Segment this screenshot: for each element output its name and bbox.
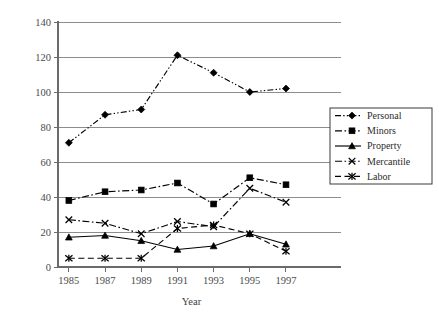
data-marker-square — [102, 189, 108, 195]
y-tick-label: 120 — [35, 52, 51, 63]
x-tick-label: 1991 — [167, 275, 188, 286]
data-marker-square — [138, 187, 144, 193]
data-marker-diamond — [102, 111, 109, 118]
data-marker-square — [349, 128, 355, 134]
legend-label-personal: Personal — [367, 110, 402, 121]
data-marker-asterisk — [282, 248, 289, 255]
x-tick-label: 1987 — [95, 275, 116, 286]
series-personal — [65, 52, 289, 147]
y-tick-labels: 020406080100120140 — [35, 17, 51, 273]
series-line-personal — [69, 55, 286, 143]
data-marker-asterisk — [174, 225, 181, 232]
legend-label-property: Property — [367, 140, 401, 151]
x-tick-label: 1993 — [203, 275, 224, 286]
data-marker-square — [66, 198, 72, 204]
data-marker-diamond — [246, 89, 253, 96]
x-axis — [58, 267, 341, 272]
data-marker-square — [247, 175, 253, 181]
data-marker-x — [138, 230, 145, 237]
data-marker-asterisk — [246, 230, 253, 237]
data-marker-square — [211, 201, 217, 207]
y-tick-label: 80 — [41, 122, 52, 133]
series-property — [65, 230, 289, 252]
gridlines — [58, 22, 341, 232]
y-tick-label: 20 — [41, 227, 52, 238]
x-axis-title-text: Year — [182, 296, 202, 307]
x-tick-label: 1989 — [131, 275, 152, 286]
data-marker-square — [283, 182, 289, 188]
y-tick-label: 60 — [41, 157, 52, 168]
x-tick-label: 1995 — [239, 275, 260, 286]
x-tick-label: 1985 — [58, 275, 79, 286]
y-tick-label: 140 — [35, 17, 51, 28]
y-tick-label: 40 — [41, 192, 52, 203]
y-axis — [54, 21, 58, 267]
legend-label-minors: Minors — [367, 125, 396, 136]
y-tick-label: 100 — [35, 87, 51, 98]
data-marker-square — [175, 180, 181, 186]
legend-label-mercantile: Mercantile — [367, 156, 411, 167]
series-labor — [65, 221, 289, 261]
data-marker-diamond — [282, 85, 289, 92]
y-tick-label: 0 — [46, 262, 51, 273]
chart-figure: 020406080100120140 198519871989199119931… — [0, 0, 439, 320]
line-chart: 020406080100120140 198519871989199119931… — [0, 0, 439, 320]
data-marker-x — [283, 199, 290, 206]
data-series — [65, 52, 289, 262]
data-marker-x — [247, 185, 254, 192]
legend-label-labor: Labor — [367, 171, 392, 182]
data-marker-diamond — [174, 52, 181, 59]
data-marker-diamond — [210, 69, 217, 76]
x-tick-labels: 1985198719891991199319951997 — [58, 275, 296, 286]
x-axis-title: Year — [182, 296, 202, 307]
x-tick-label: 1997 — [275, 275, 296, 286]
chart-legend[interactable]: PersonalMinorsPropertyMercantileLabor — [330, 108, 432, 184]
data-marker-diamond — [138, 106, 145, 113]
